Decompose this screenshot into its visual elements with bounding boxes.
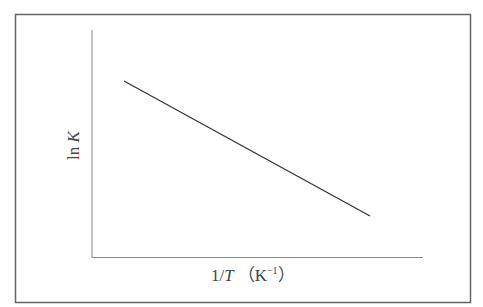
x-axis-label: 1/T（K−1） [211,265,295,285]
chart: ln K 1/T（K−1） [0,0,483,307]
data-line [124,81,370,216]
y-axis-label: ln K [64,130,83,160]
chart-frame [16,15,471,303]
